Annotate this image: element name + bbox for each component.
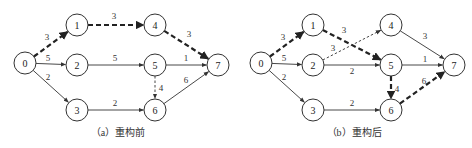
node-label: 3 <box>311 105 316 116</box>
edge-weight-label: 6 <box>184 75 189 85</box>
edge-weight-label: 4 <box>159 83 164 93</box>
edge-0-to-1 <box>270 32 304 57</box>
edge-0-to-2 <box>36 63 66 64</box>
node-label: 1 <box>311 20 316 31</box>
diagram-caption: （a）重构前 <box>91 126 145 138</box>
node-7: 7 <box>207 54 229 76</box>
node-4: 4 <box>144 14 166 36</box>
diagram-caption: （b）重构后 <box>327 126 382 138</box>
node-3: 3 <box>302 99 324 121</box>
node-1: 1 <box>66 14 88 36</box>
node-6: 6 <box>380 99 402 121</box>
node-label: 5 <box>389 60 394 71</box>
node-1: 1 <box>302 14 324 36</box>
node-6: 6 <box>144 99 166 121</box>
node-2: 2 <box>302 54 324 76</box>
node-label: 7 <box>452 60 457 71</box>
edge-weight-label: 4 <box>395 84 400 94</box>
edge-weight-label: 3 <box>331 43 336 53</box>
node-label: 6 <box>389 105 394 116</box>
edge-weight-label: 2 <box>46 72 51 82</box>
edge-0-to-1 <box>34 32 68 57</box>
edge-weight-label: 3 <box>423 31 428 41</box>
edge-weight-label: 3 <box>187 29 192 39</box>
node-label: 1 <box>75 20 80 31</box>
diagram-after-restructure: 3333521224601234567（b）重构后 <box>250 14 465 138</box>
node-3: 3 <box>66 99 88 121</box>
node-label: 6 <box>153 105 158 116</box>
edge-weight-label: 2 <box>350 66 355 76</box>
node-0: 0 <box>250 52 272 74</box>
edge-weight-label: 3 <box>281 32 286 42</box>
node-label: 7 <box>216 60 221 71</box>
edge-weight-label: 3 <box>342 25 347 35</box>
network-diagram-canvas: 333551224601234567（a）重构前 333352122460123… <box>0 0 472 148</box>
edge-0-to-3 <box>269 70 304 102</box>
edge-weight-label: 1 <box>423 54 428 64</box>
node-label: 2 <box>75 60 80 71</box>
node-4: 4 <box>380 14 402 36</box>
edge-weight-label: 2 <box>350 98 355 108</box>
node-label: 4 <box>153 20 158 31</box>
node-2: 2 <box>66 54 88 76</box>
node-5: 5 <box>380 54 402 76</box>
node-label: 2 <box>311 60 316 71</box>
edge-weight-label: 1 <box>184 53 189 63</box>
edge-0-to-3 <box>33 70 68 102</box>
node-5: 5 <box>144 54 166 76</box>
node-label: 0 <box>259 58 264 69</box>
edge-weight-label: 5 <box>46 53 51 63</box>
edge-weight-label: 5 <box>113 53 118 63</box>
edge-weight-label: 6 <box>422 76 427 86</box>
node-label: 5 <box>153 60 158 71</box>
diagram-before-restructure: 333551224601234567（a）重构前 <box>14 11 229 138</box>
edge-weight-label: 3 <box>112 11 117 21</box>
edge-weight-label: 5 <box>282 53 287 63</box>
node-7: 7 <box>443 54 465 76</box>
edge-weight-label: 3 <box>45 32 50 42</box>
node-0: 0 <box>14 52 36 74</box>
edge-0-to-2 <box>272 63 302 64</box>
node-label: 0 <box>23 58 28 69</box>
edge-weight-label: 2 <box>282 72 287 82</box>
node-label: 3 <box>75 105 80 116</box>
edge-weight-label: 2 <box>113 98 118 108</box>
node-label: 4 <box>389 20 394 31</box>
